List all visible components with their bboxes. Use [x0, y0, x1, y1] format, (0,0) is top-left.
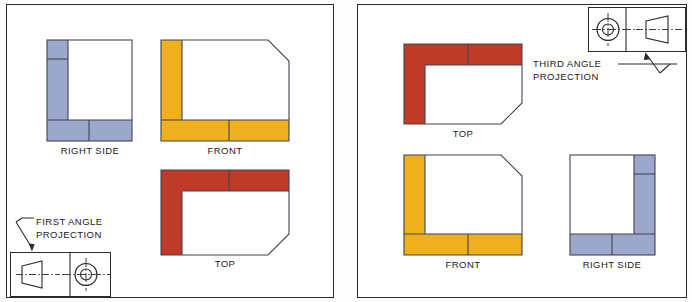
- view-label-front-first-angle: FRONT: [175, 145, 275, 156]
- view-label-front-third-angle: FRONT: [413, 259, 513, 270]
- view-label-top-third-angle: TOP: [413, 128, 513, 139]
- first-angle-projection-label-line1: FIRST ANGLE: [36, 216, 103, 229]
- third-angle-projection-label-line2: PROJECTION: [533, 71, 599, 84]
- view-label-right-side-first-angle: RIGHT SIDE: [40, 145, 140, 156]
- third-angle-symbol-box: [588, 7, 686, 52]
- first-angle-projection-label-line2: PROJECTION: [36, 229, 102, 242]
- first-angle-symbol-box: [10, 252, 111, 297]
- view-label-top-first-angle: TOP: [175, 258, 275, 269]
- third-angle-projection-label-line1: THIRD ANGLE: [533, 58, 601, 71]
- view-label-right-side-third-angle: RIGHT SIDE: [562, 259, 662, 270]
- projection-comparison-figure: RIGHT SIDE FRONT TOP FIRST ANGLE PROJECT…: [0, 0, 692, 302]
